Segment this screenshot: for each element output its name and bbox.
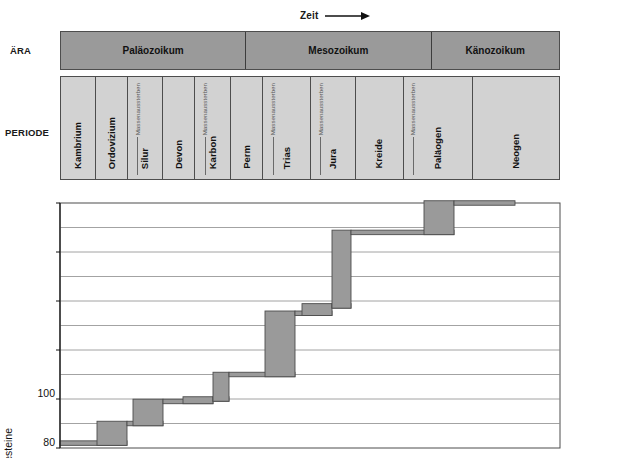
- era-cell-känozoikum: Känozoikum: [432, 32, 559, 69]
- period-cell-devon: Devon: [163, 77, 196, 179]
- era-row-label: ÄRA: [10, 45, 31, 56]
- period-band: KambriumOrdoviziumMassenaussterbenSilurD…: [60, 76, 560, 180]
- period-cell-perm: Perm: [231, 77, 263, 179]
- step-tread: [454, 201, 515, 206]
- step-riser: [424, 201, 454, 235]
- period-cell-label: Karbon: [208, 136, 218, 169]
- chart-area: Prozent Erdölmuttergesteine 100806040200: [0, 190, 629, 458]
- period-row-label: PERIODE: [5, 127, 49, 138]
- period-cell-neogen: Neogen: [473, 77, 559, 179]
- era-cell-label: Känozoikum: [466, 45, 525, 56]
- step-riser: [133, 399, 163, 426]
- era-cell-paläozoikum: Paläozoikum: [61, 32, 246, 69]
- period-cell-label: Silur: [140, 148, 150, 169]
- period-cell-kreide: Kreide: [356, 77, 404, 179]
- period-cell-label: Trias: [282, 147, 292, 169]
- mass-extinction-marker: Massenaussterben: [267, 83, 279, 175]
- step-riser: [302, 304, 332, 316]
- step-plot: [0, 190, 629, 458]
- mass-extinction-label: Massenaussterben: [318, 83, 324, 135]
- period-cell-label: Ordovizium: [107, 117, 117, 169]
- period-cell-palogen: MassenaussterbenPaläogen: [404, 77, 474, 179]
- era-band: PaläozoikumMesozoikumKänozoikum: [60, 31, 560, 70]
- period-cell-label: Paläogen: [433, 127, 443, 169]
- period-cell-ordovizium: Ordovizium: [96, 77, 128, 179]
- period-cell-label: Neogen: [511, 134, 521, 169]
- mass-extinction-marker: Massenaussterben: [315, 83, 327, 175]
- mass-extinction-tick: [413, 137, 414, 175]
- mass-extinction-marker: Massenaussterben: [408, 83, 420, 175]
- era-cell-mesozoikum: Mesozoikum: [246, 32, 431, 69]
- period-cell-trias: MassenaussterbenTrias: [263, 77, 311, 179]
- step-riser: [265, 311, 295, 377]
- step-riser: [183, 397, 213, 404]
- mass-extinction-tick: [273, 137, 274, 175]
- time-axis-header: Zeit: [300, 10, 371, 21]
- period-cell-label: Jura: [328, 149, 338, 169]
- step-riser: [97, 421, 127, 445]
- period-cell-label: Perm: [242, 145, 252, 169]
- mass-extinction-label: Massenaussterben: [270, 83, 276, 135]
- era-cell-label: Paläozoikum: [123, 45, 184, 56]
- period-cell-label: Kambrium: [73, 122, 83, 169]
- period-cell-label: Kreide: [374, 139, 384, 169]
- mass-extinction-label: Massenaussterben: [135, 83, 141, 135]
- right-arrow-icon: [325, 11, 371, 21]
- mass-extinction-tick: [205, 137, 206, 175]
- mass-extinction-tick: [320, 137, 321, 175]
- period-cell-label: Devon: [174, 140, 184, 169]
- mass-extinction-label: Massenaussterben: [202, 83, 208, 135]
- mass-extinction-label: Massenaussterben: [410, 83, 416, 135]
- period-cell-kambrium: Kambrium: [61, 77, 96, 179]
- era-cell-label: Mesozoikum: [308, 45, 368, 56]
- period-cell-karbon: MassenaussterbenKarbon: [195, 77, 231, 179]
- step-riser: [332, 230, 351, 308]
- period-cell-jura: MassenaussterbenJura: [311, 77, 356, 179]
- time-axis-label: Zeit: [300, 10, 319, 21]
- geologic-timescale-figure: Zeit ÄRA PERIODE PaläozoikumMesozoikumKä…: [0, 0, 629, 458]
- period-cell-silur: MassenaussterbenSilur: [128, 77, 163, 179]
- step-riser: [213, 372, 229, 401]
